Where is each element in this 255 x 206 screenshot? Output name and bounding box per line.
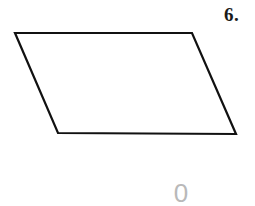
zero-watermark-text: 0 <box>169 178 193 206</box>
worksheet-canvas: 6. 0 <box>0 0 255 206</box>
parallelogram-figure <box>0 0 255 206</box>
parallelogram-outline <box>15 33 236 134</box>
